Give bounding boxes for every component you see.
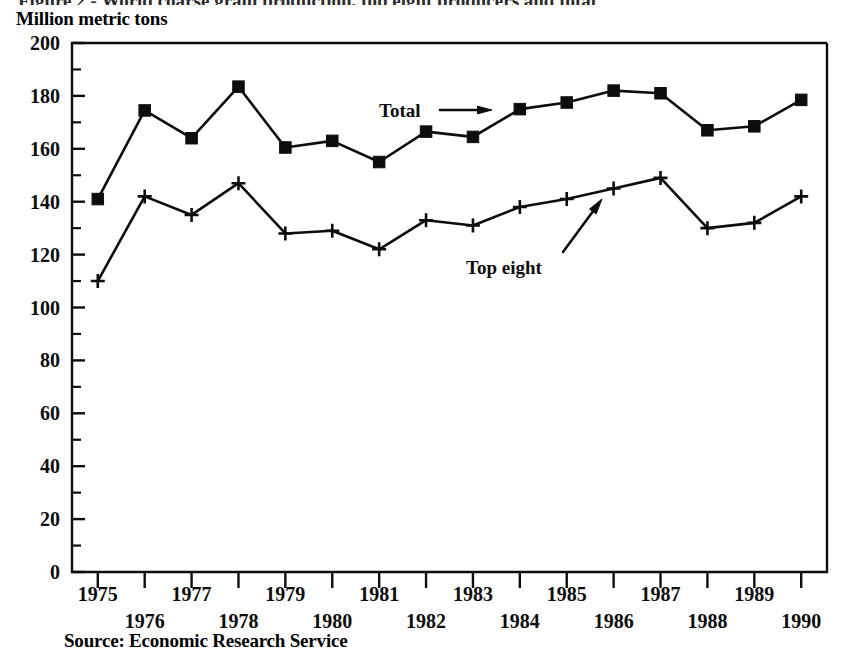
x-axis-tick-label: 1986 [594, 610, 634, 632]
data-point-square-marker [373, 156, 385, 168]
annotation-arrow-total [440, 106, 492, 114]
y-axis-tick-label: 160 [30, 138, 60, 160]
data-point-plus-marker [513, 200, 527, 214]
data-point-plus-marker [91, 274, 105, 288]
figure-container: Figure 2 - World coarse grain production… [0, 0, 845, 660]
data-point-plus-marker [747, 216, 761, 230]
x-axis-tick-label: 1979 [265, 583, 305, 605]
data-point-square-marker [92, 193, 104, 205]
data-point-plus-marker [419, 213, 433, 227]
data-point-square-marker [280, 142, 292, 154]
data-point-square-marker [795, 94, 807, 106]
data-point-square-marker [608, 85, 620, 97]
x-axis-tick-label: 1978 [218, 610, 258, 632]
data-point-plus-marker [138, 189, 152, 203]
series-total [92, 81, 807, 205]
x-axis-tick-label: 1990 [781, 610, 821, 632]
data-point-plus-marker [607, 181, 621, 195]
annotation-label-top-eight: Top eight [466, 257, 543, 278]
data-point-square-marker [514, 103, 526, 115]
x-axis-tick-label: 1976 [125, 610, 165, 632]
data-point-square-marker [702, 125, 714, 137]
y-axis-tick-label: 120 [30, 244, 60, 266]
x-axis-tick-label: 1989 [734, 583, 774, 605]
y-axis-tick-label: 100 [30, 297, 60, 319]
x-axis-tick-label: 1983 [453, 583, 493, 605]
y-axis-tick-label: 60 [40, 402, 60, 424]
x-axis-tick-label: 1975 [78, 583, 118, 605]
data-point-square-marker [561, 97, 573, 109]
chart-series [91, 81, 808, 288]
y-axis-ticks: 020406080100120140160180200 [30, 32, 85, 583]
x-axis-tick-label: 1987 [641, 583, 681, 605]
x-axis-ticks: 1975197619771978197919801981198219831984… [78, 572, 821, 632]
data-point-plus-marker [560, 192, 574, 206]
data-point-square-marker [139, 105, 151, 117]
y-axis-tick-label: 0 [50, 561, 60, 583]
x-axis-tick-label: 1977 [172, 583, 212, 605]
data-point-plus-marker [466, 219, 480, 233]
series-top-eight [91, 171, 808, 288]
x-axis-tick-label: 1982 [406, 610, 446, 632]
chart-axes [72, 43, 827, 572]
x-axis-tick-label: 1981 [359, 583, 399, 605]
y-axis-tick-label: 40 [40, 455, 60, 477]
source-note: Source: Economic Research Service [64, 630, 347, 652]
data-point-plus-marker [185, 208, 199, 222]
x-axis-tick-label: 1985 [547, 583, 587, 605]
y-axis-tick-label: 20 [40, 508, 60, 530]
data-point-square-marker [327, 135, 339, 147]
x-axis-tick-label: 1980 [312, 610, 352, 632]
annotation-label-total: Total [379, 100, 421, 121]
y-axis-tick-label: 140 [30, 191, 60, 213]
data-point-square-marker [420, 126, 432, 138]
x-axis-tick-label: 1988 [687, 610, 727, 632]
data-point-square-marker [233, 81, 245, 93]
data-point-square-marker [655, 88, 667, 100]
data-point-square-marker [749, 121, 761, 133]
data-point-plus-marker [325, 224, 339, 238]
data-point-plus-marker [372, 242, 386, 256]
y-axis-tick-label: 80 [40, 349, 60, 371]
series-line [98, 178, 801, 281]
y-axis-tick-label: 200 [30, 32, 60, 54]
series-line [98, 87, 801, 199]
y-axis-tick-label: 180 [30, 85, 60, 107]
x-axis-tick-label: 1984 [500, 610, 540, 632]
data-point-plus-marker [794, 189, 808, 203]
data-point-square-marker [467, 131, 479, 143]
data-point-square-marker [186, 132, 198, 144]
annotation-arrow-top-eight [563, 199, 602, 252]
line-chart-plot: 020406080100120140160180200 197519761977… [0, 0, 845, 660]
